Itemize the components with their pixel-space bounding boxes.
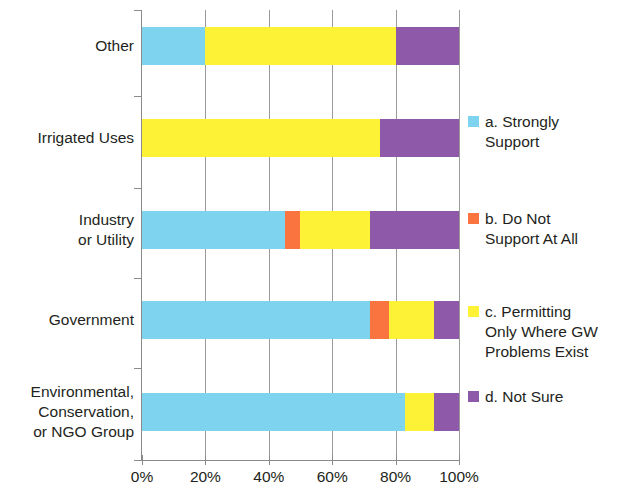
bar-row — [142, 301, 459, 339]
legend-item[interactable]: d. Not Sure — [468, 387, 563, 407]
y-axis-tick — [134, 278, 142, 279]
bar-row — [142, 119, 459, 157]
x-axis-tick — [459, 455, 460, 465]
bar-segment-a — [142, 301, 370, 339]
x-axis-tick-label: 20% — [175, 468, 235, 486]
bar-segment-d — [370, 211, 459, 249]
bar-segment-d — [434, 301, 459, 339]
bar-segment-a — [142, 393, 405, 431]
y-axis-category-label: Government — [6, 310, 134, 330]
y-axis-tick — [134, 10, 142, 11]
legend-item[interactable]: b. Do Not Support At All — [468, 209, 578, 249]
x-axis-tick-label: 40% — [239, 468, 299, 486]
y-axis-category-label: Environmental,Conservation,or NGO Group — [6, 382, 134, 442]
plot-area — [142, 10, 459, 460]
y-axis-tick — [134, 188, 142, 189]
x-axis-line — [141, 460, 460, 461]
legend-item[interactable]: a. Strongly Support — [468, 112, 559, 152]
bar-segment-a — [142, 27, 205, 65]
bar-segment-c — [389, 301, 433, 339]
x-axis-tick-label: 80% — [366, 468, 426, 486]
y-axis-tick — [134, 368, 142, 369]
bar-segment-c — [205, 27, 395, 65]
stacked-bar-chart: OtherIrrigated UsesIndustryor UtilityGov… — [0, 0, 624, 498]
y-axis-category-label: Industryor Utility — [6, 210, 134, 250]
bar-segment-d — [396, 27, 459, 65]
x-axis-tick-label: 0% — [112, 468, 172, 486]
legend-swatch-icon — [468, 213, 479, 224]
y-axis-category-label: Irrigated Uses — [6, 128, 134, 148]
legend-swatch-icon — [468, 306, 479, 317]
legend-label: d. Not Sure — [485, 387, 563, 407]
legend-label: c. Permitting Only Where GW Problems Exi… — [485, 302, 598, 362]
bar-segment-d — [380, 119, 459, 157]
bar-segment-c — [300, 211, 370, 249]
bar-segment-c — [142, 119, 380, 157]
legend-swatch-icon — [468, 116, 479, 127]
legend-swatch-icon — [468, 391, 479, 402]
x-axis-tick-label: 60% — [302, 468, 362, 486]
bar-segment-a — [142, 211, 285, 249]
y-axis-category-label: Other — [6, 36, 134, 56]
bar-segment-b — [370, 301, 389, 339]
legend-label: b. Do Not Support At All — [485, 209, 578, 249]
legend-item[interactable]: c. Permitting Only Where GW Problems Exi… — [468, 302, 598, 362]
y-axis-tick — [134, 96, 142, 97]
bar-row — [142, 393, 459, 431]
bar-row — [142, 211, 459, 249]
x-axis-tick-label: 100% — [429, 468, 489, 486]
y-axis-category-labels: OtherIrrigated UsesIndustryor UtilityGov… — [0, 0, 134, 470]
bar-segment-b — [285, 211, 301, 249]
bar-segment-d — [434, 393, 459, 431]
legend-label: a. Strongly Support — [485, 112, 559, 152]
bar-segment-c — [405, 393, 434, 431]
gridline — [459, 10, 460, 460]
y-axis-tick — [134, 460, 142, 461]
bar-row — [142, 27, 459, 65]
